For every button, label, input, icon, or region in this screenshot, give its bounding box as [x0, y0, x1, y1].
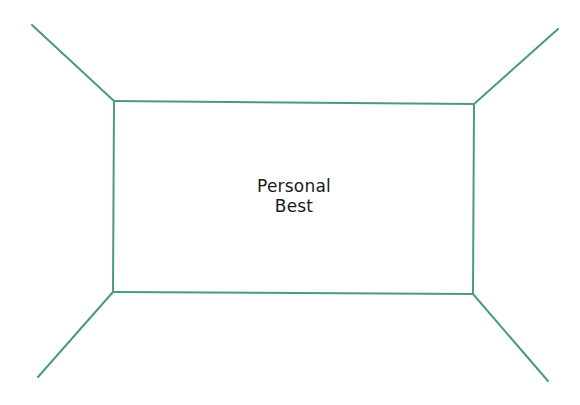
- diagram-canvas: Personal Best: [0, 0, 580, 405]
- rect-left-edge: [113, 101, 114, 292]
- top-left-diagonal: [32, 25, 114, 101]
- center-label: Personal Best: [194, 176, 394, 216]
- label-line-2: Best: [194, 196, 394, 216]
- top-right-diagonal: [474, 29, 558, 104]
- bottom-right-diagonal: [473, 294, 548, 381]
- rect-bottom-edge: [113, 292, 473, 294]
- bottom-left-diagonal: [38, 292, 113, 377]
- label-line-1: Personal: [194, 176, 394, 196]
- rect-right-edge: [473, 104, 474, 294]
- rect-top-edge: [114, 101, 474, 104]
